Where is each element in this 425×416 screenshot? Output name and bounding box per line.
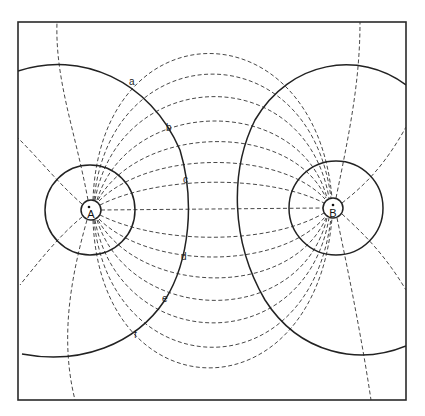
- charge-a-label: A: [87, 208, 95, 220]
- equipotential-lines: [18, 64, 406, 357]
- charge-b-label: B: [329, 207, 336, 219]
- point-label-f: f: [134, 329, 137, 340]
- point-label-a: a: [129, 76, 135, 87]
- diagram-frame: [18, 22, 406, 400]
- charge-b: B: [323, 198, 343, 219]
- charge-a: A: [81, 200, 101, 220]
- point-label-b: b: [166, 122, 172, 133]
- field-lines: [18, 22, 406, 400]
- point-label-e: e: [162, 293, 168, 304]
- point-label-d: d: [181, 251, 187, 262]
- point-label-c: c: [183, 174, 188, 185]
- field-diagram: A B a b c d e f: [0, 0, 425, 416]
- equipotential-outer-b: [237, 65, 406, 355]
